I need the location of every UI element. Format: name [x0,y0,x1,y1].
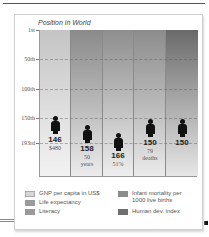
value-label: 79 [135,148,165,155]
legend-item-human-dev-index: Human dev. index [118,208,180,215]
value-unit: years [72,161,102,168]
column-human-dev-index [166,30,198,176]
legend-item-literacy: Literacy [25,208,60,215]
top-rule [3,3,205,4]
legend-swatch [25,191,35,197]
bottom-rule [0,221,14,222]
legend-label: Life expectancy [39,199,81,206]
value-label: 51% [103,161,133,168]
gridline-50th [40,59,197,60]
chart-title: Position in World [38,19,91,26]
legend-item-gnp: GNP per capita in US$ [25,190,100,197]
gridline-100th [40,89,197,90]
ytick-label: 50th [15,56,35,62]
chart-card: Position in World 1st 50th 100th 150th 1… [14,14,203,230]
ytick-label: 100th [15,86,35,92]
gridline-150th [40,118,197,119]
legend-label: GNP per capita in US$ [39,190,100,197]
legend-swatch [118,209,128,215]
rank-value: 146 [40,136,70,144]
value-label: $480 [40,145,70,152]
legend-item-infant-mortality: Infant mortality per 1000 live births [118,190,182,204]
legend-swatch [25,209,35,215]
legend-label: Human dev. index [132,208,180,215]
legend-item-life-expectancy: Life expectancy [25,199,81,206]
bottom-rule [0,219,14,220]
legend-swatch [25,200,35,206]
rank-value: 150 [167,139,197,147]
value-unit: deaths [135,155,165,162]
ytick-label: 150th [15,115,35,121]
legend-label: Infant mortality per [132,190,182,197]
plot-area: 146 $480 158 50 years 166 51% 150 79 dea… [39,30,197,177]
rank-value: 158 [72,145,102,153]
ytick-label: 1st [15,27,35,33]
ytick-label: 193rd [15,140,35,146]
corner-mark [204,221,208,225]
column-gnp [40,30,71,176]
legend-label: Literacy [39,208,60,215]
rank-value: 166 [103,152,133,160]
value-label: 50 [72,154,102,161]
legend-label-line2: 1000 live births [132,197,182,204]
rank-value: 150 [135,139,165,147]
legend-swatch [118,191,128,197]
